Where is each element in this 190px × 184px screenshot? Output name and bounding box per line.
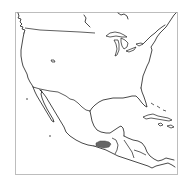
offshore-island [26,98,28,100]
highlighted-region[interactable] [96,141,111,148]
map-svg [0,0,190,184]
offshore-island [49,135,51,137]
map-container [0,0,190,184]
map-frame [16,13,178,175]
